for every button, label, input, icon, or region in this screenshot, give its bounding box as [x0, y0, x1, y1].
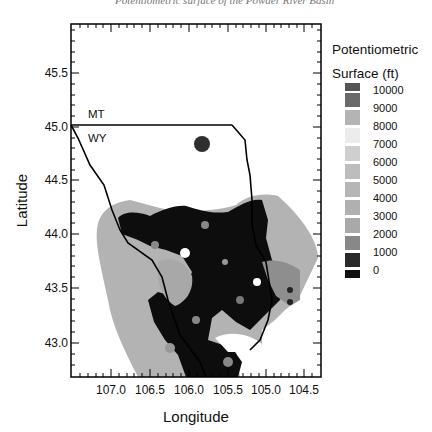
y-tick-label: 44.0 — [28, 227, 68, 241]
x-tick-label: 107.0 — [91, 383, 131, 397]
x-tick-label: 105.5 — [208, 383, 248, 397]
legend-label: 4000 — [373, 192, 397, 204]
y-tick-label: 45.5 — [28, 66, 68, 80]
legend-swatch — [345, 110, 360, 125]
x-axis-title: Longitude — [163, 408, 229, 425]
map-plot — [0, 0, 432, 432]
y-tick-label: 43.5 — [28, 281, 68, 295]
legend-label: 7000 — [373, 138, 397, 150]
legend-swatch — [345, 83, 360, 91]
legend-swatch — [345, 146, 360, 161]
y-tick-label: 44.5 — [28, 173, 68, 187]
x-tick-label: 104.5 — [284, 383, 324, 397]
x-tick-label: 106.5 — [130, 383, 170, 397]
y-tick-label: 43.0 — [28, 336, 68, 350]
legend-label: 3000 — [373, 210, 397, 222]
legend-swatch — [345, 200, 360, 215]
y-tick-label: 45.0 — [28, 120, 68, 134]
y-axis-title: Latitude — [13, 171, 30, 231]
potentiometric-surface-raster — [97, 136, 318, 377]
state-label-mt: MT — [88, 108, 105, 120]
x-tick-label: 106.0 — [169, 383, 209, 397]
legend-label: 6000 — [373, 156, 397, 168]
legend-title-line1: Potentiometric — [332, 42, 418, 57]
legend-label: 9000 — [373, 102, 397, 114]
legend-swatch — [345, 93, 360, 107]
legend-label: 1000 — [373, 246, 397, 258]
legend-title-line2: Surface (ft) — [332, 66, 399, 81]
legend-label: 10000 — [373, 84, 404, 96]
legend-label: 2000 — [373, 228, 397, 240]
state-label-wy: WY — [88, 132, 107, 144]
legend-label: 0 — [373, 264, 379, 276]
legend-swatch — [345, 253, 360, 267]
legend-swatch — [345, 270, 360, 278]
legend-swatch — [345, 218, 360, 233]
legend-swatch — [345, 236, 360, 250]
legend-label: 8000 — [373, 120, 397, 132]
legend-swatch — [345, 164, 360, 179]
x-tick-label: 105.0 — [246, 383, 286, 397]
legend-swatch — [345, 128, 360, 143]
legend-swatch — [345, 182, 360, 197]
legend-label: 5000 — [373, 174, 397, 186]
